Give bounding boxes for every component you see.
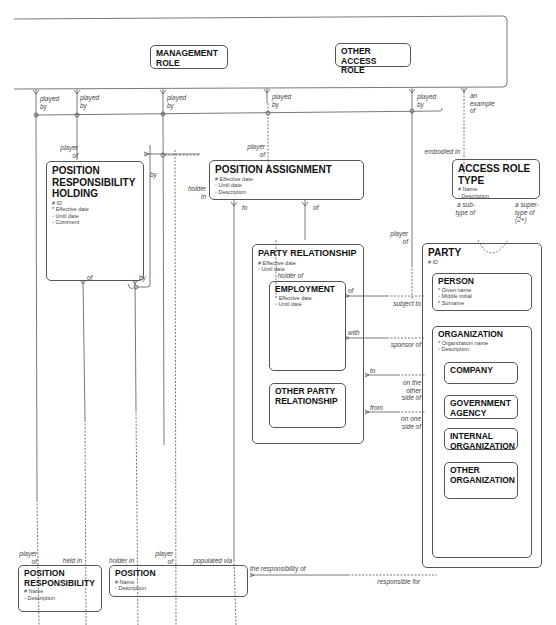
other-access-role-title-2: ROLE xyxy=(341,66,405,76)
person-entity[interactable]: PERSON * Given name ◦ Middle initial * S… xyxy=(432,273,532,311)
government-agency-entity[interactable]: GOVERNMENT AGENCY xyxy=(444,395,518,419)
person-attr-middle-initial: ◦ Middle initial xyxy=(438,293,526,300)
other-org-title-2: ORGANIZATION xyxy=(450,476,512,486)
label-played-by-2: playedby xyxy=(80,94,99,109)
other-party-relationship-entity[interactable]: OTHER PARTY RELATIONSHIP xyxy=(269,383,346,428)
party-title: PARTY xyxy=(428,247,536,259)
label-player-of-prh: playerof xyxy=(58,144,78,159)
management-role-entity[interactable]: MANAGEMENT ROLE xyxy=(150,45,228,69)
label-by-prh-bottom: by xyxy=(139,274,146,282)
person-title: PERSON xyxy=(438,277,526,287)
organization-title: ORGANIZATION xyxy=(438,330,526,340)
pa-title: POSITION ASSIGNMENT xyxy=(215,164,358,176)
label-played-by-5: playedby xyxy=(417,93,436,108)
person-attr-given-name: * Given name xyxy=(438,287,526,294)
position-title: POSITION xyxy=(115,569,242,579)
label-player-of-pr: playerof xyxy=(14,550,37,565)
label-sponsor-of: sponsor of xyxy=(380,341,421,349)
label-to-pa: to xyxy=(242,204,247,212)
label-the-responsibility-of: the responsibility of xyxy=(250,565,306,573)
prh-attr-effective-date: * Effective date xyxy=(52,206,138,213)
pr-title: PARTY RELATIONSHIP xyxy=(258,248,358,260)
label-of-employment: of xyxy=(348,287,353,295)
person-attr-surname: * Surname xyxy=(438,300,526,307)
management-role-title-2: ROLE xyxy=(156,59,222,69)
label-holder-in-position: holder in xyxy=(105,557,134,565)
employment-title: EMPLOYMENT xyxy=(275,285,340,295)
pa-attr-description: ◦ Description xyxy=(215,189,358,196)
label-of-pa: of xyxy=(313,204,318,212)
label-an-example-of: anexampleof xyxy=(470,92,495,115)
label-with: with xyxy=(348,329,360,337)
other-access-role-entity[interactable]: OTHER ACCESS ROLE xyxy=(335,43,411,67)
label-by-prh: by xyxy=(150,171,157,179)
position-responsibility-entity[interactable]: POSITION RESPONSIBILITY # Name ◦ Descrip… xyxy=(18,565,102,612)
label-to-pr: to xyxy=(370,367,375,375)
access-role-type-entity[interactable]: ACCESS ROLE TYPE # Name ◦ Description xyxy=(452,159,540,199)
org-attr-description: ◦ Description xyxy=(438,346,526,353)
art-attr-description: ◦ Description xyxy=(458,193,534,200)
other-access-role-title-1: OTHER ACCESS xyxy=(341,47,405,66)
pos-resp-title-2: RESPONSIBILITY xyxy=(24,579,96,589)
company-title: COMPANY xyxy=(450,366,512,376)
prh-attr-id: # ID xyxy=(52,200,138,207)
label-from: from xyxy=(370,404,383,412)
label-populated-via: populated via xyxy=(190,557,232,565)
label-played-by-1: playedby xyxy=(40,95,59,110)
label-subject-to: subject to xyxy=(385,300,421,308)
pos-resp-attr-description: ◦ Description xyxy=(24,595,96,602)
position-responsibility-holding-entity[interactable]: POSITION RESPONSIBILITY HOLDING # ID * E… xyxy=(46,161,144,281)
gov-agency-title-2: AGENCY xyxy=(450,409,512,419)
prh-title-1: POSITION xyxy=(52,165,138,177)
position-entity[interactable]: POSITION # Name ◦ Description xyxy=(109,565,248,597)
position-attr-description: ◦ Description xyxy=(115,585,242,592)
label-embodied-in: embodied in xyxy=(420,148,460,156)
label-player-of-party: playerof xyxy=(385,230,408,245)
employment-attr-effective-date: * Effective date xyxy=(275,295,340,302)
position-assignment-entity[interactable]: POSITION ASSIGNMENT # Effective date ◦ U… xyxy=(209,160,364,200)
party-attr-id: # ID xyxy=(428,259,536,266)
employment-entity[interactable]: EMPLOYMENT * Effective date ◦ Until date xyxy=(269,281,346,371)
label-on-the-other-side-of: on theotherside of xyxy=(390,379,421,402)
label-holder-of: holder of xyxy=(260,272,303,280)
internal-org-title-2: ORGANIZATION xyxy=(450,442,512,452)
pa-attr-until-date: ◦ Until date xyxy=(215,182,358,189)
art-title: ACCESS ROLE TYPE xyxy=(458,163,534,186)
prh-attr-comment: ◦ Comment xyxy=(52,219,138,226)
label-played-by-3: playedby xyxy=(167,94,186,109)
prh-title-3: HOLDING xyxy=(52,188,138,200)
label-responsible-for: responsible for xyxy=(370,578,420,586)
art-attr-name: # Name xyxy=(458,186,534,193)
org-attr-name: * Organization name xyxy=(438,340,526,347)
label-played-by-4: playedby xyxy=(272,93,291,108)
prh-attr-until-date: ◦ Until date xyxy=(52,213,138,220)
employment-attr-until-date: ◦ Until date xyxy=(275,301,340,308)
opr-title-2: RELATIONSHIP xyxy=(275,397,340,407)
prh-title-2: RESPONSIBILITY xyxy=(52,177,138,189)
label-on-one-side-of: on oneside of xyxy=(390,415,421,430)
label-a-subtype-of: a sub-type of xyxy=(450,201,475,216)
label-player-of-position: playerof xyxy=(150,550,173,565)
pos-resp-attr-name: # Name xyxy=(24,588,96,595)
label-player-of-pa: playerof xyxy=(240,143,265,158)
label-held-in: held in xyxy=(55,557,82,565)
internal-organization-entity[interactable]: INTERNAL ORGANIZATION xyxy=(444,428,518,450)
position-attr-name: # Name xyxy=(115,579,242,586)
label-a-supertype-of: a super-type of(2+) xyxy=(515,201,539,224)
company-entity[interactable]: COMPANY xyxy=(444,362,518,384)
label-of-prh: of xyxy=(87,274,92,282)
label-holder-in: holderin xyxy=(182,185,206,200)
pa-attr-effective-date: # Effective date xyxy=(215,176,358,183)
pr-attr-effective-date: # Effective date xyxy=(258,260,358,267)
other-organization-entity[interactable]: OTHER ORGANIZATION xyxy=(444,462,518,499)
